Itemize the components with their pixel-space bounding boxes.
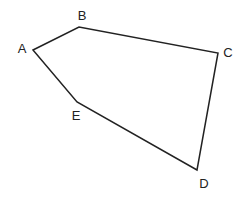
- vertex-label-c: C: [223, 45, 232, 60]
- pentagon-diagram: A B C D E: [0, 0, 242, 197]
- vertex-label-b: B: [78, 8, 87, 23]
- vertex-label-e: E: [72, 108, 81, 123]
- vertex-label-a: A: [18, 41, 27, 56]
- pentagon-shape: [33, 27, 218, 170]
- vertex-label-d: D: [199, 176, 208, 191]
